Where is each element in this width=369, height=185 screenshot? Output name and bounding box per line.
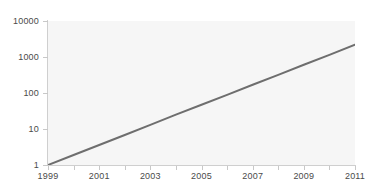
y-tick-label-1: 1 [34,160,39,170]
series-line-layer [48,21,355,165]
x-tick-2002 [125,166,126,170]
chart-container: 100001000100101 199920012003200520072009… [0,0,369,185]
x-tick-label-2005: 2005 [191,171,212,181]
x-tick-label-2009: 2009 [293,171,314,181]
x-tick-label-1999: 1999 [38,171,59,181]
x-tick-2008 [278,166,279,170]
y-tick-label-100: 100 [23,88,39,98]
x-tick-2006 [227,166,228,170]
series-line [48,45,355,165]
x-tick-2009 [304,166,305,170]
x-tick-2003 [150,166,151,170]
plot-area [48,21,355,165]
y-tick-10000 [43,21,48,22]
x-tick-2004 [176,166,177,170]
x-tick-label-2003: 2003 [140,171,161,181]
y-tick-label-10: 10 [29,124,39,134]
x-tick-2011 [355,166,356,170]
x-tick-2007 [253,166,254,170]
x-tick-label-2011: 2011 [345,171,365,181]
x-tick-2001 [99,166,100,170]
y-tick-1000 [43,57,48,58]
x-tick-2010 [329,166,330,170]
y-tick-label-1000: 1000 [18,52,39,62]
x-tick-1999 [48,166,49,170]
y-tick-label-10000: 10000 [13,16,39,26]
x-tick-2000 [74,166,75,170]
y-tick-100 [43,93,48,94]
x-tick-label-2001: 2001 [89,171,110,181]
x-tick-2005 [202,166,203,170]
y-tick-10 [43,129,48,130]
x-tick-label-2007: 2007 [242,171,263,181]
